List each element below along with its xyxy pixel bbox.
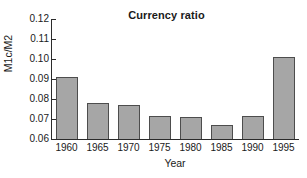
y-tick-label: 0.11 <box>9 34 49 44</box>
bar <box>242 116 264 139</box>
y-tick-label: 0.08 <box>9 94 49 104</box>
y-tick-label: 0.09 <box>9 74 49 84</box>
y-tick-label: 0.07 <box>9 114 49 124</box>
bar <box>56 77 78 139</box>
bar <box>211 125 233 139</box>
x-axis-label: Year <box>51 158 299 169</box>
y-tick-mark <box>52 139 56 140</box>
y-tick-mark <box>52 59 56 60</box>
bar <box>118 105 140 139</box>
y-tick-label: 0.06 <box>9 134 49 144</box>
plot-area: 0.060.070.080.090.100.110.12 19601965197… <box>51 19 299 139</box>
bar <box>87 103 109 139</box>
bar <box>180 117 202 139</box>
x-tick-label: 1995 <box>262 142 306 153</box>
x-axis-line <box>51 139 299 140</box>
y-tick-label: 0.12 <box>9 14 49 24</box>
y-tick-mark <box>52 19 56 20</box>
bar <box>273 57 295 139</box>
bar <box>149 116 171 139</box>
chart-figure: Currency ratio M1c/M2 0.060.070.080.090.… <box>0 0 307 178</box>
y-tick-mark <box>52 39 56 40</box>
y-tick-label: 0.10 <box>9 54 49 64</box>
